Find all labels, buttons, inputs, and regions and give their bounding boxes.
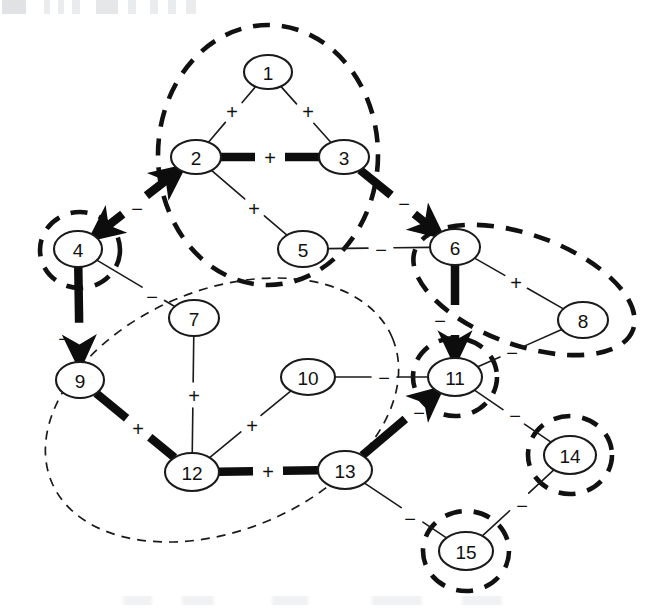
node-4[interactable]: 4: [54, 231, 102, 267]
edge-sign-9-12: +: [132, 418, 144, 440]
edge-2-5: [212, 170, 245, 199]
node-label-5: 5: [298, 240, 309, 261]
node-label-8: 8: [578, 311, 589, 332]
edge-sign-14-15: −: [516, 495, 528, 517]
edge-sign-2-5: +: [248, 198, 260, 220]
signed-graph-svg: +++−+−−−−+−−+++−+−−−− 123456789101112131…: [0, 0, 654, 615]
node-label-1: 1: [263, 63, 274, 84]
edge-1-2: [242, 87, 256, 103]
edge-1-2-b: [208, 122, 225, 142]
edge-7-12: [193, 336, 194, 382]
node-label-11: 11: [445, 368, 465, 389]
edge-sign-10-12: +: [246, 415, 258, 437]
node-10[interactable]: 10: [281, 359, 335, 395]
node-6[interactable]: 6: [430, 229, 480, 265]
edge-10-12: [261, 391, 291, 416]
edge-6-8-b: [527, 288, 563, 309]
edge-8-11: [524, 329, 562, 346]
node-label-4: 4: [73, 240, 84, 261]
edge-4-9: [78, 267, 79, 323]
edge-sign-5-6: −: [375, 239, 387, 261]
edge-sign-10-11: −: [378, 367, 390, 389]
edge-sign-3-6: −: [398, 193, 410, 215]
node-3[interactable]: 3: [319, 140, 369, 174]
edge-3-6-b: [414, 214, 438, 233]
edge-sign-2-3: +: [264, 147, 276, 169]
edge-10-12-b: [210, 432, 241, 458]
node-label-2: 2: [191, 148, 202, 169]
edge-signs-group: +++−+−−−−+−−+++−+−−−−: [58, 101, 528, 530]
edge-1-3-b: [314, 123, 331, 142]
node-12[interactable]: 12: [165, 453, 219, 491]
edge-13-15: [365, 483, 402, 508]
edge-1-3: [281, 86, 297, 103]
edge-5-6: [328, 248, 368, 249]
node-7[interactable]: 7: [169, 300, 219, 336]
edge-sign-6-8: +: [510, 272, 522, 294]
edge-2-5-b: [264, 216, 287, 235]
node-15[interactable]: 15: [439, 532, 493, 570]
edge-sign-13-11: −: [413, 402, 425, 424]
edge-9-12-b: [150, 437, 175, 457]
edge-sign-6-11: −: [434, 310, 446, 332]
node-label-14: 14: [559, 446, 581, 467]
edge-sign-8-11: −: [506, 342, 518, 364]
node-9[interactable]: 9: [56, 362, 104, 398]
edge-6-8: [475, 258, 505, 275]
nodes-group: 123456789101112131415: [54, 55, 608, 570]
edge-sign-12-13: +: [262, 461, 274, 483]
node-label-12: 12: [181, 463, 202, 484]
node-label-10: 10: [297, 368, 318, 389]
edge-sign-1-2: +: [226, 101, 238, 123]
node-5[interactable]: 5: [278, 231, 328, 267]
edge-sign-2-4: −: [131, 198, 143, 220]
node-label-7: 7: [189, 309, 200, 330]
node-label-13: 13: [334, 461, 355, 482]
edge-13-11-b: [428, 392, 438, 400]
node-label-3: 3: [339, 148, 350, 169]
node-label-6: 6: [450, 238, 461, 259]
node-label-9: 9: [75, 371, 86, 392]
edge-13-11: [362, 419, 405, 455]
node-8[interactable]: 8: [558, 302, 608, 338]
edge-14-15: [529, 470, 554, 493]
node-1[interactable]: 1: [244, 55, 292, 89]
edge-sign-4-9: −: [58, 328, 70, 350]
edge-sign-1-3: +: [302, 101, 314, 123]
edge-2-4: [146, 170, 179, 196]
edge-sign-7-12: +: [188, 385, 200, 407]
edge-9-12: [96, 393, 126, 418]
node-label-15: 15: [455, 542, 476, 563]
edge-sign-4-7: −: [146, 286, 158, 308]
node-2[interactable]: 2: [171, 140, 221, 174]
edge-sign-11-14: −: [509, 405, 521, 427]
node-11[interactable]: 11: [428, 358, 482, 396]
cluster-enclosure-cluster-g: [5, 227, 439, 592]
edge-sign-13-15: −: [404, 508, 416, 530]
edge-7-12-b: [192, 408, 193, 453]
cluster-enclosures-group: [5, 25, 652, 593]
node-14[interactable]: 14: [544, 436, 596, 474]
node-13[interactable]: 13: [318, 451, 372, 489]
diagram-canvas: +++−+−−−−+−−+++−+−−−− 123456789101112131…: [0, 0, 654, 615]
